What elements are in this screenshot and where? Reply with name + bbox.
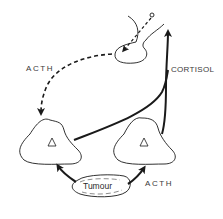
tumour-label: Tumour (83, 182, 112, 191)
cortisol-label: CORTISOL (171, 66, 214, 74)
pituitary-gland (115, 40, 147, 63)
adrenal-gland-right (114, 118, 176, 165)
acth-dashed-arrow (41, 54, 112, 113)
hypothalamus-outline (128, 16, 164, 42)
adrenal-gland-left (20, 119, 82, 164)
tumour-to-left-adrenal-arrow (58, 166, 76, 182)
acth-label-top: ACTH (26, 65, 54, 73)
tumour-to-right-adrenal-arrow (128, 168, 144, 184)
releasing-factor-source-icon (150, 13, 154, 17)
cortisol-arrow-left (74, 70, 168, 140)
acth-label-bottom: ACTH (145, 180, 173, 188)
